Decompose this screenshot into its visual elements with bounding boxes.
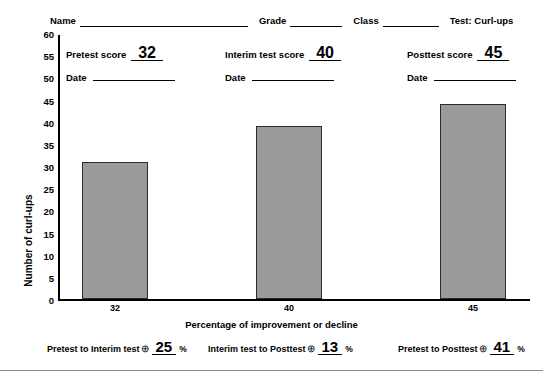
pretest-score-block: Pretest score 32 Date — [66, 42, 175, 84]
circle-plus-icon: ⊕ — [307, 343, 315, 355]
y-tick-label-40: 40 — [43, 119, 54, 129]
test-name-label: Test: Curl-ups — [450, 15, 514, 26]
student-info-header: Name Grade Class Test: Curl-ups — [50, 10, 528, 30]
y-tick-label-50: 50 — [43, 74, 54, 84]
interim-date-input-line[interactable] — [252, 80, 334, 81]
circle-plus-icon: ⊕ — [479, 343, 487, 355]
interim-date-label: Date — [225, 71, 246, 84]
y-tick-label-0: 0 — [49, 296, 54, 306]
pretest-score-value[interactable]: 32 — [131, 45, 163, 61]
percentage-entry-row: Pretest to Interim test ⊕ 25 % Interim t… — [0, 340, 543, 364]
pct-pretest-to-posttest-value[interactable]: 41 — [490, 340, 515, 355]
grade-label: Grade — [259, 15, 286, 26]
class-label: Class — [353, 15, 378, 26]
x-axis-title: Percentage of improvement or decline — [0, 319, 543, 330]
y-axis-title: Number of curl-ups — [23, 181, 34, 301]
percent-sign: % — [517, 343, 525, 355]
y-tick-label-35: 35 — [43, 141, 54, 151]
bar-posttest — [440, 104, 506, 299]
circle-plus-icon: ⊕ — [141, 343, 149, 355]
page-bottom-divider — [0, 370, 543, 371]
interim-date-row: Date — [225, 66, 341, 84]
posttest-score-row: Posttest score 45 — [407, 42, 516, 61]
posttest-score-label: Posttest score — [407, 48, 472, 61]
pretest-date-label: Date — [66, 71, 87, 84]
y-tick-label-20: 20 — [43, 207, 54, 217]
posttest-date-row: Date — [407, 66, 516, 84]
y-tick-label-5: 5 — [49, 274, 54, 284]
pretest-score-label: Pretest score — [66, 48, 126, 61]
worksheet-page: Name Grade Class Test: Curl-ups 0 5 10 1… — [0, 0, 543, 377]
grade-input-line[interactable] — [290, 26, 342, 27]
bar-pretest — [82, 162, 148, 299]
x-tick-label-2: 40 — [284, 303, 294, 313]
y-tick-label-55: 55 — [43, 52, 54, 62]
y-tick-label-60: 60 — [43, 30, 54, 40]
posttest-date-input-line[interactable] — [434, 80, 516, 81]
bar-interim — [256, 126, 322, 299]
interim-score-value[interactable]: 40 — [309, 45, 341, 61]
pct-pretest-to-interim: Pretest to Interim test ⊕ 25 % — [47, 340, 187, 355]
interim-score-row: Interim test score 40 — [225, 42, 341, 61]
y-axis-title-wrap: Number of curl-ups — [12, 115, 28, 235]
pct-pretest-to-interim-value[interactable]: 25 — [152, 340, 177, 355]
y-tick-label-30: 30 — [43, 163, 54, 173]
y-tick-label-10: 10 — [43, 252, 54, 262]
class-input-line[interactable] — [383, 26, 439, 27]
percent-sign: % — [345, 343, 353, 355]
x-tick-label-1: 32 — [110, 303, 120, 313]
pct-pretest-to-posttest-label: Pretest to Posttest — [398, 343, 478, 355]
pretest-date-row: Date — [66, 66, 175, 84]
interim-score-label: Interim test score — [225, 48, 304, 61]
interim-score-block: Interim test score 40 Date — [225, 42, 341, 84]
y-tick-label-25: 25 — [43, 185, 54, 195]
pct-interim-to-posttest-value[interactable]: 13 — [318, 340, 343, 355]
pct-interim-to-posttest-label: Interim test to Posttest — [208, 343, 306, 355]
pct-interim-to-posttest: Interim test to Posttest ⊕ 13 % — [208, 340, 353, 355]
posttest-score-value[interactable]: 45 — [477, 45, 509, 61]
y-tick-label-15: 15 — [43, 230, 54, 240]
pretest-score-row: Pretest score 32 — [66, 42, 175, 61]
pct-pretest-to-interim-label: Pretest to Interim test — [47, 343, 140, 355]
percent-sign: % — [179, 343, 187, 355]
x-tick-label-3: 45 — [468, 303, 478, 313]
pct-pretest-to-posttest: Pretest to Posttest ⊕ 41 % — [398, 340, 525, 355]
name-input-line[interactable] — [80, 26, 248, 27]
posttest-score-block: Posttest score 45 Date — [407, 42, 516, 84]
y-tick-label-45: 45 — [43, 97, 54, 107]
pretest-date-input-line[interactable] — [93, 80, 175, 81]
name-label: Name — [50, 15, 76, 26]
posttest-date-label: Date — [407, 71, 428, 84]
